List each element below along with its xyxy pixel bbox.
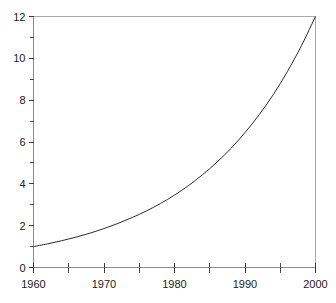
x-tick-label: 1980 (162, 278, 186, 290)
y-tick-label: 12 (13, 11, 25, 23)
exponential-growth-line-chart: 024681012 19601970198019902000 (0, 0, 336, 303)
x-tick-label: 1960 (21, 278, 45, 290)
y-tick-label: 4 (19, 178, 25, 190)
x-tick-label: 1970 (92, 278, 116, 290)
y-tick-label: 8 (19, 94, 25, 106)
chart-container: 024681012 19601970198019902000 (0, 0, 336, 303)
chart-background (0, 0, 336, 303)
y-tick-label: 2 (19, 220, 25, 232)
y-tick-label: 10 (13, 52, 25, 64)
x-tick-label: 2000 (303, 278, 327, 290)
y-tick-label: 6 (19, 136, 25, 148)
y-tick-label: 0 (19, 262, 25, 274)
x-tick-label: 1990 (233, 278, 257, 290)
